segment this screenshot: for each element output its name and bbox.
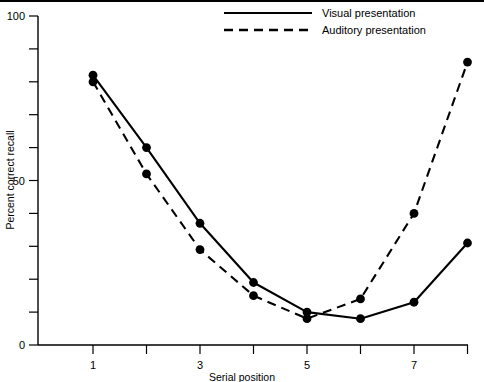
y-axis-title: Percent correct recall [4, 130, 16, 229]
serial-position-chart: 100 50 0 1 3 5 7 Percent correct recall … [0, 0, 484, 382]
data-point [356, 314, 365, 323]
data-point [196, 219, 205, 228]
series-markers-visual [89, 71, 472, 323]
data-point [410, 298, 419, 307]
data-point [142, 143, 151, 152]
legend-label-visual: Visual presentation [322, 7, 415, 19]
y-tick-label-100: 100 [7, 10, 25, 22]
x-tick-label-5: 5 [304, 359, 310, 371]
series-markers-auditory [89, 58, 472, 323]
data-point [196, 245, 205, 254]
x-tick-label-1: 1 [90, 359, 96, 371]
x-tick-label-3: 3 [197, 359, 203, 371]
data-point [142, 170, 151, 179]
data-point [356, 295, 365, 304]
chart-canvas: 100 50 0 1 3 5 7 Percent correct recall … [0, 0, 484, 382]
series-line-auditory [93, 62, 468, 319]
data-point [249, 278, 258, 287]
data-point [249, 291, 258, 300]
data-point [303, 308, 312, 317]
y-axis-ticks [29, 16, 38, 345]
x-axis-title: Serial position [209, 371, 275, 382]
data-point [463, 239, 472, 248]
legend-label-auditory: Auditory presentation [322, 24, 426, 36]
x-tick-label-7: 7 [411, 359, 417, 371]
data-point [463, 58, 472, 67]
x-axis-ticks [93, 345, 468, 354]
series-line-visual [93, 75, 468, 318]
data-point [89, 71, 98, 80]
y-tick-label-0: 0 [19, 339, 25, 351]
data-point [410, 209, 419, 218]
chart-legend: Visual presentation Auditory presentatio… [224, 7, 426, 36]
